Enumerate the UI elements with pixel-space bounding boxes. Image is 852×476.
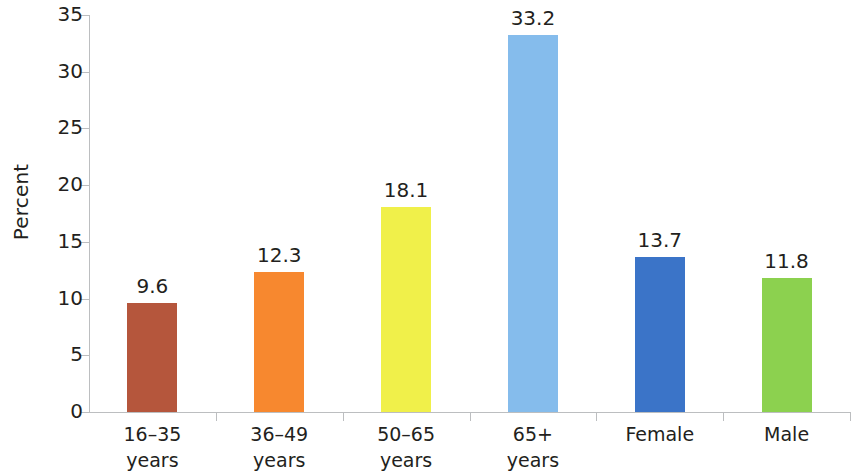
bar-value-label: 12.3 bbox=[257, 244, 302, 267]
category-label-line1: Female bbox=[625, 423, 694, 445]
category-label-line2: years bbox=[343, 447, 470, 473]
category-label-line2: years bbox=[470, 447, 597, 473]
bar-chart: Percent 051015202530359.612.318.133.213.… bbox=[0, 0, 852, 476]
plot-area: 051015202530359.612.318.133.213.711.8 bbox=[89, 15, 850, 412]
category-label-line2: years bbox=[89, 447, 216, 473]
y-axis-tick-label: 25 bbox=[58, 115, 83, 139]
bar: 11.8 bbox=[762, 278, 812, 412]
x-axis-tick bbox=[596, 412, 597, 421]
bar: 33.2 bbox=[508, 35, 558, 412]
category-label-line1: 65+ bbox=[513, 423, 553, 445]
x-axis-category-label: 65+years bbox=[470, 421, 597, 473]
bar-value-label: 33.2 bbox=[511, 7, 556, 30]
bar-value-label: 13.7 bbox=[637, 229, 682, 252]
x-axis-category-label: Male bbox=[723, 421, 850, 447]
y-axis-tick-label: 30 bbox=[58, 59, 83, 83]
y-axis-tick-label: 5 bbox=[70, 342, 83, 366]
x-axis-tick bbox=[216, 412, 217, 421]
category-label-line1: 50–65 bbox=[377, 423, 435, 445]
category-label-line1: 16–35 bbox=[123, 423, 181, 445]
y-axis-tick-label: 10 bbox=[58, 286, 83, 310]
bar-value-label: 18.1 bbox=[384, 179, 429, 202]
category-label-line2: years bbox=[216, 447, 343, 473]
y-axis-tick-label: 35 bbox=[58, 2, 83, 26]
y-axis-tick-label: 0 bbox=[70, 399, 83, 423]
y-axis-title: Percent bbox=[9, 152, 33, 252]
x-axis-category-label: 36–49years bbox=[216, 421, 343, 473]
y-axis-tick-label: 20 bbox=[58, 172, 83, 196]
category-label-line1: 36–49 bbox=[250, 423, 308, 445]
bar-value-label: 9.6 bbox=[137, 275, 169, 298]
x-axis-category-label: 50–65years bbox=[343, 421, 470, 473]
bar: 18.1 bbox=[381, 207, 431, 412]
x-axis-category-label: Female bbox=[596, 421, 723, 447]
y-axis-line bbox=[89, 15, 90, 412]
x-axis-tick bbox=[470, 412, 471, 421]
y-axis-tick-label: 15 bbox=[58, 229, 83, 253]
bar: 13.7 bbox=[635, 257, 685, 412]
x-axis-tick bbox=[343, 412, 344, 421]
category-label-line1: Male bbox=[764, 423, 809, 445]
x-axis-tick bbox=[850, 412, 851, 421]
x-axis-category-label: 16–35years bbox=[89, 421, 216, 473]
bar: 12.3 bbox=[254, 272, 304, 412]
bar-value-label: 11.8 bbox=[764, 250, 809, 273]
bar: 9.6 bbox=[127, 303, 177, 412]
x-axis-tick bbox=[723, 412, 724, 421]
